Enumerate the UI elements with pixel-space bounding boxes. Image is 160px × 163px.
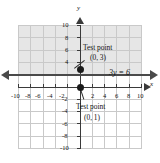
x-tick (55, 84, 56, 87)
x-tick (18, 84, 19, 87)
y-axis-label: y (77, 4, 80, 12)
x-tick (67, 84, 68, 87)
boundary-line-arrow-left-icon (1, 70, 9, 80)
x-tick-label-4: 4 (103, 93, 106, 100)
x-tick-label-neg4: -4 (47, 93, 52, 100)
y-tick (77, 148, 80, 149)
y-tick-label-neg8: -8 (62, 133, 67, 140)
y-tick-label-neg4: -4 (62, 108, 67, 115)
x-tick-label-6: 6 (115, 93, 118, 100)
x-tick-label-8: 8 (127, 93, 130, 100)
y-tick (77, 136, 80, 137)
x-tick (141, 84, 142, 87)
x-tick-label-2: 2 (91, 93, 94, 100)
x-tick-label-10: 10 (137, 93, 144, 100)
x-tick-label-neg8: -8 (25, 93, 30, 100)
y-tick-label-neg10: -10 (60, 145, 69, 152)
boundary-line-arrow-right-icon (150, 70, 158, 80)
y-axis-arrow-icon (76, 17, 84, 24)
plot-area (18, 25, 142, 149)
y-tick (77, 123, 80, 124)
y-tick-label-6: 6 (65, 47, 68, 54)
y-tick-label-10: 10 (62, 22, 69, 29)
x-tick (116, 84, 117, 87)
boundary-line (8, 74, 152, 76)
test-point-upper-label: Test point (83, 44, 112, 53)
y-tick (77, 37, 80, 38)
x-tick-label-neg6: -6 (35, 93, 40, 100)
y-tick (77, 50, 80, 51)
x-tick (43, 84, 44, 87)
y-tick-label-4: 4 (65, 59, 68, 66)
y-tick-label-neg6: -6 (62, 121, 67, 128)
y-tick (77, 25, 80, 26)
x-tick (92, 84, 93, 87)
x-tick (104, 84, 105, 87)
y-tick-label-8: 8 (65, 35, 68, 42)
graph-figure: 10 8 6 4 -2 -4 -6 -8 -10 -10 -8 -6 -4 -2… (0, 0, 160, 163)
test-point-lower-value: (0, 1) (84, 114, 100, 123)
x-axis-label: x (150, 80, 153, 88)
test-point-upper-value: (0, 3) (90, 54, 106, 63)
x-tick-label-neg2: -2 (59, 93, 64, 100)
y-tick (77, 99, 80, 100)
x-tick (30, 84, 31, 87)
test-point-lower-label: Test point (76, 103, 105, 112)
test-point-lower-marker (77, 84, 84, 91)
test-point-upper-marker (77, 66, 84, 73)
x-tick (129, 84, 130, 87)
equation-label: 3y = 6 (109, 68, 130, 77)
x-tick-label-neg10: -10 (11, 93, 20, 100)
